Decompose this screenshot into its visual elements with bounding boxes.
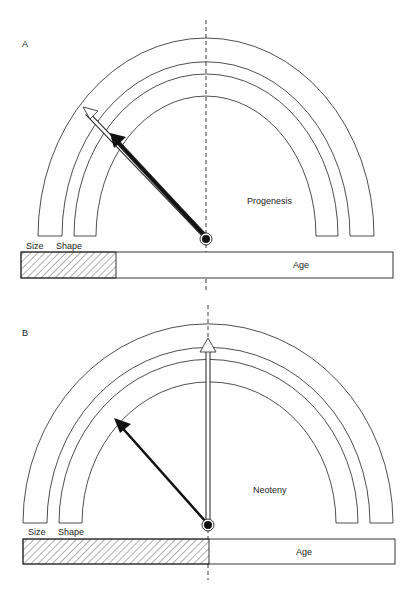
panel-a: A Progenesis Size Shape Age — [21, 20, 393, 292]
heterochrony-diagram: A Progenesis Size Shape Age B — [0, 0, 419, 599]
panel-b: B Neoteny Size Shape Age — [22, 305, 395, 580]
panel-b-title: Neoteny — [253, 485, 287, 495]
shape-arrow — [114, 418, 206, 522]
shape-label: Shape — [58, 527, 84, 537]
size-arc — [38, 38, 374, 236]
panel-a-letter: A — [22, 39, 28, 49]
size-label: Size — [26, 241, 44, 251]
panel-a-title: Progenesis — [247, 196, 293, 206]
hatched-age — [23, 539, 209, 564]
hatched-age — [21, 252, 116, 278]
age-label: Age — [296, 547, 312, 557]
size-arrow — [200, 338, 216, 520]
age-label: Age — [293, 260, 309, 270]
panel-b-letter: B — [22, 328, 28, 338]
shape-label: Shape — [56, 241, 82, 251]
shape-arrow — [110, 133, 205, 236]
size-label: Size — [28, 527, 46, 537]
